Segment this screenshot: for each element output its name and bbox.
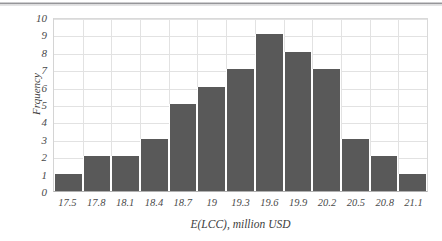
bar-slot (284, 19, 313, 191)
bar-slot (197, 19, 226, 191)
bar-slot (226, 19, 255, 191)
bar-slot (398, 19, 427, 191)
y-axis-tick-label: 0 (17, 187, 47, 198)
bar[interactable] (226, 69, 255, 191)
bar[interactable] (140, 139, 169, 191)
bar[interactable] (197, 87, 226, 191)
x-axis-title: E(LCC), million USD (53, 218, 428, 230)
bar-series (54, 19, 427, 191)
y-axis-title: Frquency (30, 49, 42, 139)
bar-slot (370, 19, 399, 191)
x-axis-ticks: 17.517.818.118.418.71919.319.619.920.220… (53, 197, 428, 208)
bar-slot (54, 19, 83, 191)
x-axis-tick-label: 19.3 (226, 197, 255, 208)
bar[interactable] (398, 174, 427, 191)
histogram-chart: 109876543210 Frquency 17.517.818.118.418… (0, 0, 442, 241)
x-axis-tick-label: 17.5 (53, 197, 82, 208)
y-axis-tick-label: 2 (17, 152, 47, 163)
y-axis-tick-label: 1 (17, 170, 47, 181)
x-axis-tick-label: 17.8 (82, 197, 111, 208)
bar-slot (255, 19, 284, 191)
bar[interactable] (54, 174, 83, 191)
x-axis-tick-label: 18.1 (111, 197, 140, 208)
x-axis-tick-label: 20.8 (370, 197, 399, 208)
bar[interactable] (370, 156, 399, 191)
bar-slot (111, 19, 140, 191)
bar[interactable] (312, 69, 341, 191)
bar[interactable] (255, 34, 284, 191)
x-axis-tick-label: 19.9 (284, 197, 313, 208)
bar-slot (169, 19, 198, 191)
bar-slot (341, 19, 370, 191)
bar[interactable] (169, 104, 198, 191)
bar[interactable] (284, 52, 313, 191)
bar-slot (140, 19, 169, 191)
x-axis-tick-label: 20.5 (341, 197, 370, 208)
x-axis-tick-label: 18.7 (168, 197, 197, 208)
x-axis-tick-label: 20.2 (313, 197, 342, 208)
y-axis-tick-label: 10 (17, 13, 47, 24)
x-axis-tick-label: 19.6 (255, 197, 284, 208)
y-axis-tick-label: 9 (17, 30, 47, 41)
x-axis-tick-label: 19 (197, 197, 226, 208)
x-axis-tick-label: 18.4 (140, 197, 169, 208)
bar[interactable] (341, 139, 370, 191)
bar[interactable] (111, 156, 140, 191)
bar-slot (312, 19, 341, 191)
x-axis-tick-label: 21.1 (399, 197, 428, 208)
bar[interactable] (83, 156, 112, 191)
bar-slot (83, 19, 112, 191)
plot-area (53, 18, 428, 192)
